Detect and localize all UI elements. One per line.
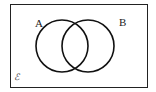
set-a-label: A [35,17,43,29]
universal-set-frame [11,5,148,88]
universal-set-label: ℰ [14,72,21,82]
set-b-label: B [119,16,126,28]
venn-diagram: A B ℰ [0,0,156,92]
